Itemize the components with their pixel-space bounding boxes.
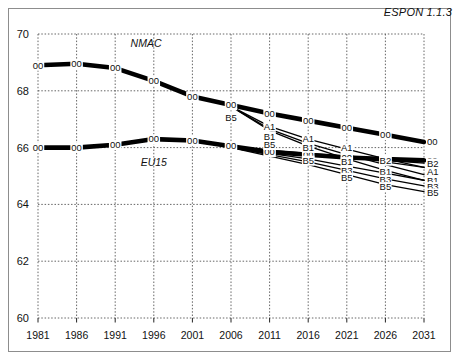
ytick-label-66: 66 [17,142,29,154]
point-label-00-2021: 00 [342,122,353,133]
point-label-00-2011: 00 [264,108,275,119]
point-label-00-2016: 00 [303,115,314,126]
point-label-00-1986: 00 [71,58,82,69]
point-label-00-2006: 00 [226,99,237,110]
point-label-B5-2031: B5 [427,187,439,198]
point-label-B5-2011: B5 [264,139,276,150]
xtick-label-2031: 2031 [412,329,436,341]
point-label-00-1996: 00 [149,75,160,86]
point-label-00-2001: 00 [187,91,198,102]
series-group-label-eu15: EU15 [141,156,167,168]
point-label-B1-2016: B1 [302,142,314,153]
xtick-label-1996: 1996 [142,329,166,341]
point-label-B5-2021: B5 [341,172,353,183]
axis-label-layer: 6062646668701981198619911996200120062011… [17,28,436,341]
xtick-label-1986: 1986 [65,329,89,341]
point-label-00-1996: 00 [149,133,160,144]
point-label-00-1986: 00 [71,142,82,153]
point-label-00-1991: 00 [110,139,121,150]
xtick-label-2011: 2011 [258,329,281,341]
chart-container: NMACEU15 0000000000000000000000000000000… [0,0,460,361]
point-label-00-2001: 00 [187,135,198,146]
point-label-B5-2026: B5 [380,181,392,192]
ytick-label-68: 68 [17,85,29,97]
point-label-A1-2021: A1 [341,142,353,153]
xtick-label-2006: 2006 [219,329,243,341]
xtick-label-2001: 2001 [181,329,205,341]
point-label-00-2026: 00 [380,129,391,140]
point-label-00-2006: 00 [226,140,237,151]
series-line-nmac-b1 [231,106,424,174]
point-label-00-1981: 00 [33,142,44,153]
point-label-B2-2026: B2 [380,155,392,166]
xtick-label-1981: 1981 [26,329,50,341]
point-label-00-1981: 00 [33,60,44,71]
point-label-B5-2016: B5 [302,155,314,166]
ytick-label-70: 70 [17,28,29,40]
xtick-label-2016: 2016 [297,329,321,341]
ytick-label-62: 62 [17,255,29,267]
xtick-label-2026: 2026 [374,329,398,341]
point-label-00-1991: 00 [110,62,121,73]
point-label-B5-2006: B5 [225,112,237,123]
group-label-layer: NMACEU15 [131,37,167,168]
xtick-label-1991: 1991 [104,329,128,341]
xtick-label-2021: 2021 [335,329,359,341]
ytick-label-60: 60 [17,312,29,324]
grid-layer [38,34,424,323]
ytick-label-64: 64 [17,198,29,210]
line-chart: NMACEU15 0000000000000000000000000000000… [0,0,460,361]
point-label-00-2031: 00 [427,136,438,147]
series-group-label-nmac: NMAC [131,37,162,49]
